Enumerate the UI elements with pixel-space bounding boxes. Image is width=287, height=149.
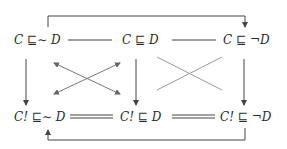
node-bottom-mid: C! ⊑ D xyxy=(120,110,161,124)
top-bracket-arrow xyxy=(48,16,245,27)
bottom-left-mid-double-line xyxy=(70,115,113,118)
bottom-bracket-arrow xyxy=(48,128,245,140)
node-top-right: C ⊑ ¬D xyxy=(223,33,270,47)
bottom-mid-right-double-line xyxy=(172,115,215,118)
node-top-left: C ⊑∼ D xyxy=(14,33,61,47)
diagram-edges xyxy=(0,0,287,149)
diagram-canvas: C ⊑∼ D C ⊑ D C ⊑ ¬D C! ⊑∼ D C! ⊑ D C! ⊑ … xyxy=(0,0,287,149)
node-top-mid: C ⊑ D xyxy=(122,33,159,47)
node-bottom-right: C! ⊑ ¬D xyxy=(220,110,271,124)
node-bottom-left: C! ⊑∼ D xyxy=(14,110,65,124)
